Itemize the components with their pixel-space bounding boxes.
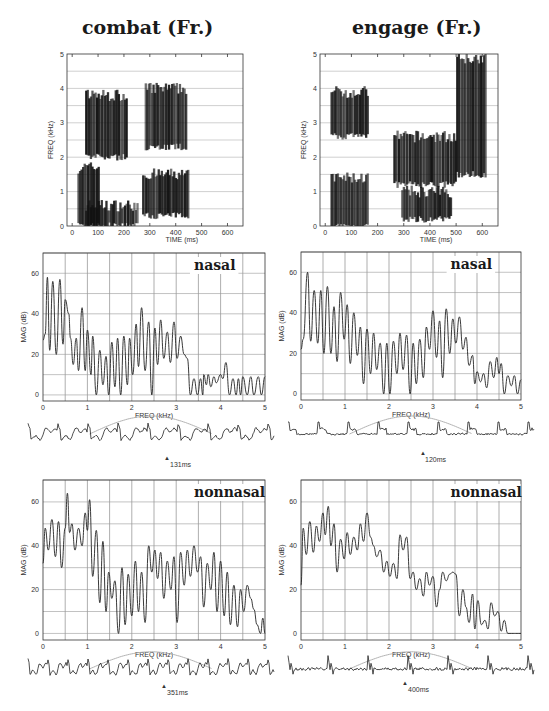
y-tick-label: 60	[289, 498, 297, 505]
x-tick-label: 200	[118, 229, 130, 236]
y-tick-label: 2	[60, 154, 64, 161]
spectrogram-combat: 0100200300400500600012345TIME (ms)FREQ (…	[0, 48, 275, 238]
x-tick-label: 0	[70, 229, 74, 236]
caption-cutoff	[105, 700, 545, 711]
x-tick-label: 500	[450, 229, 462, 236]
y-tick-label: 40	[31, 310, 39, 317]
y-tick-label: 20	[289, 350, 297, 357]
x-tick-label: 1	[85, 404, 89, 411]
y-axis-label: FREQ (kHz)	[47, 121, 55, 159]
y-axis-label: MAG (dB)	[278, 544, 286, 575]
time-marker-engage-nasal: 120ms	[425, 456, 446, 463]
y-axis-label: MAG (dB)	[20, 311, 28, 342]
y-tick-label: 40	[289, 542, 297, 549]
x-tick-label: 100	[92, 229, 104, 236]
x-tick-label: 1	[343, 403, 347, 410]
x-tick-label: 2	[130, 404, 134, 411]
x-tick-label: 600	[476, 229, 488, 236]
y-tick-label: 60	[31, 270, 39, 277]
y-tick-label: 20	[289, 586, 297, 593]
x-tick-label: 0	[41, 404, 45, 411]
x-tick-label: 4	[219, 404, 223, 411]
x-tick-label: 0	[299, 403, 303, 410]
y-axis-label: MAG (dB)	[278, 310, 286, 341]
x-tick-label: 4	[475, 403, 479, 410]
plot-tag: nonnasal	[194, 484, 265, 500]
waveform-trace	[288, 656, 534, 675]
waveform-engage-nasal	[288, 412, 534, 452]
y-tick-label: 40	[289, 309, 297, 316]
y-tick-label: 20	[31, 351, 39, 358]
y-tick-label: 60	[31, 498, 39, 505]
waveform-trace	[28, 659, 274, 676]
x-tick-label: 2	[387, 403, 391, 410]
column-title-combat: combat (Fr.)	[82, 16, 213, 38]
x-tick-label: 400	[170, 229, 182, 236]
y-tick-label: 4	[313, 85, 317, 92]
y-tick-label: 3	[60, 119, 64, 126]
plot-tag: nonnasal	[451, 484, 522, 500]
spectrum-engage-nonnasal: 0123450204060FREQ (kHz)MAG (dB)nonnasal	[275, 468, 549, 658]
y-tick-label: 5	[313, 51, 317, 58]
y-tick-label: 0	[293, 630, 297, 637]
y-tick-label: 0	[313, 223, 317, 230]
waveform-trace	[288, 422, 534, 435]
x-tick-label: 200	[372, 229, 384, 236]
spectrogram-engage: 0100200300400500600012345TIME (ms)FREQ (…	[275, 48, 549, 238]
y-tick-label: 40	[31, 542, 39, 549]
x-tick-label: 300	[398, 229, 410, 236]
y-tick-label: 4	[60, 85, 64, 92]
y-axis-label: FREQ (kHz)	[300, 121, 308, 159]
x-tick-label: 100	[346, 229, 358, 236]
x-tick-label: 0	[323, 229, 327, 236]
x-tick-label: 5	[519, 403, 523, 410]
x-tick-label: 400	[424, 229, 436, 236]
y-tick-label: 60	[289, 269, 297, 276]
y-tick-label: 1	[313, 188, 317, 195]
y-tick-label: 0	[35, 630, 39, 637]
waveform-trace	[28, 423, 274, 441]
y-axis-label: MAG (dB)	[20, 544, 28, 575]
y-tick-label: 0	[60, 223, 64, 230]
analysis-window	[350, 416, 472, 434]
y-tick-label: 1	[60, 188, 64, 195]
column-title-engage: engage (Fr.)	[352, 16, 482, 38]
x-tick-label: 5	[263, 404, 267, 411]
x-tick-label: 3	[431, 403, 435, 410]
time-marker-engage-nonnasal: 400ms	[408, 686, 429, 693]
waveform-combat-nasal	[28, 412, 274, 452]
time-marker-combat-nasal: 131ms	[170, 461, 191, 468]
y-tick-label: 0	[35, 391, 39, 398]
waveform-combat-nonnasal	[28, 648, 274, 686]
x-tick-label: 3	[174, 404, 178, 411]
x-tick-label: 500	[196, 229, 208, 236]
y-tick-label: 5	[60, 51, 64, 58]
plot-tag: nasal	[194, 257, 236, 273]
waveform-engage-nonnasal	[288, 648, 534, 686]
x-tick-label: 300	[144, 229, 156, 236]
spectrum-combat-nonnasal: 0123450204060FREQ (kHz)MAG (dB)nonnasal	[0, 468, 275, 658]
spectrum-engage-nasal: 0123450204060FREQ (kHz)MAG (dB)nasal	[275, 240, 549, 420]
spectrum-combat-nasal: 0123450204060FREQ (kHz)MAG (dB)nasal	[0, 240, 275, 420]
plot-tag: nasal	[451, 256, 493, 272]
time-marker-combat-nonnasal: 351ms	[167, 689, 188, 696]
y-tick-label: 2	[313, 154, 317, 161]
y-tick-label: 0	[293, 390, 297, 397]
y-tick-label: 3	[313, 119, 317, 126]
x-tick-label: 600	[222, 229, 234, 236]
y-tick-label: 20	[31, 586, 39, 593]
